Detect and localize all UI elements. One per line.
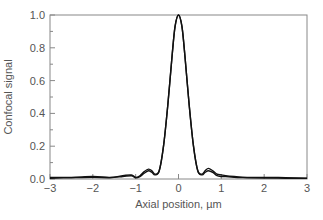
y-tick-label: 0.0 [30, 173, 45, 185]
y-axis-title: Confocal signal [2, 59, 14, 134]
x-tick-label: −2 [87, 182, 100, 194]
y-tick-label: 1.0 [30, 9, 45, 21]
x-tick-label: 2 [261, 182, 267, 194]
y-tick-labels: 0.00.20.40.60.81.0 [30, 9, 45, 185]
x-tick-label: 1 [218, 182, 224, 194]
plot-frame [50, 15, 307, 179]
series-group [50, 15, 307, 178]
chart: −3−2−10123 0.00.20.40.60.81.0 Axial posi… [0, 0, 323, 220]
y-tick-label: 0.6 [30, 75, 45, 87]
x-tick-label: −1 [129, 182, 142, 194]
x-tick-labels: −3−2−10123 [44, 182, 310, 194]
series-line-curve-2 [50, 15, 307, 178]
ticks [50, 15, 307, 179]
y-tick-label: 0.4 [30, 107, 45, 119]
x-tick-label: 0 [175, 182, 181, 194]
y-tick-label: 0.8 [30, 42, 45, 54]
x-tick-label: −3 [44, 182, 57, 194]
series-line-curve-1 [50, 15, 307, 178]
x-axis-title: Axial position, µm [135, 198, 221, 210]
x-tick-label: 3 [304, 182, 310, 194]
y-tick-label: 0.2 [30, 140, 45, 152]
